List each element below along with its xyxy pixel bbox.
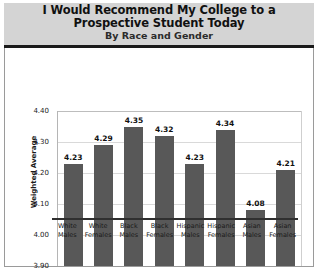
x-tick-label: HispanicFemales: [206, 222, 237, 239]
bar-value-label: 4.21: [277, 159, 296, 168]
bar-group: 4.08: [240, 111, 270, 266]
plot-area: 4.40 4.30 4.20 4.10 4.00 3.90 4.234.294.…: [57, 111, 302, 266]
bar: [155, 136, 174, 266]
bar: [94, 145, 113, 266]
x-tick-label: BlackFemales: [144, 222, 175, 239]
x-axis-labels: WhiteMalesWhiteFemalesBlackMalesBlackFem…: [52, 222, 298, 239]
bar-value-label: 4.23: [64, 153, 83, 162]
y-tick-label: 4.00: [5, 231, 49, 239]
bar-value-label: 4.29: [94, 134, 113, 143]
bar-value-label: 4.32: [155, 125, 174, 134]
bar-value-label: 4.08: [246, 199, 265, 208]
x-tick-label: WhiteMales: [52, 222, 83, 239]
bar-group: 4.29: [88, 111, 118, 266]
bar-group: 4.34: [210, 111, 240, 266]
chart-title: I Would Recommend My College to a Prospe…: [4, 4, 314, 29]
bar-group: 4.35: [119, 111, 149, 266]
bar-series: 4.234.294.354.324.234.344.084.21: [58, 111, 301, 266]
x-axis-line: [52, 218, 298, 220]
bar-group: 4.23: [180, 111, 210, 266]
x-tick-label: BlackMales: [114, 222, 145, 239]
x-tick-label: HispanicMales: [175, 222, 206, 239]
x-tick-label: AsianFemales: [267, 222, 298, 239]
bar: [216, 130, 235, 266]
chart-figure: I Would Recommend My College to a Prospe…: [0, 0, 318, 271]
x-tick-label: WhiteFemales: [83, 222, 114, 239]
y-tick-label: 4.20: [5, 169, 49, 177]
y-tick-label: 4.40: [5, 107, 49, 115]
bar-group: 4.32: [149, 111, 179, 266]
bar-value-label: 4.35: [125, 116, 144, 125]
bar: [185, 164, 204, 266]
x-tick-label: AsianMales: [237, 222, 268, 239]
y-tick-label: 3.90: [5, 262, 49, 270]
bar-value-label: 4.23: [185, 153, 204, 162]
chart-subtitle: By Race and Gender: [4, 30, 314, 41]
bar: [124, 127, 143, 267]
bar: [64, 164, 83, 266]
bar-value-label: 4.34: [216, 119, 235, 128]
y-tick-label: 4.30: [5, 138, 49, 146]
bar-group: 4.21: [271, 111, 301, 266]
bar-group: 4.23: [58, 111, 88, 266]
y-tick-label: 4.10: [5, 200, 49, 208]
